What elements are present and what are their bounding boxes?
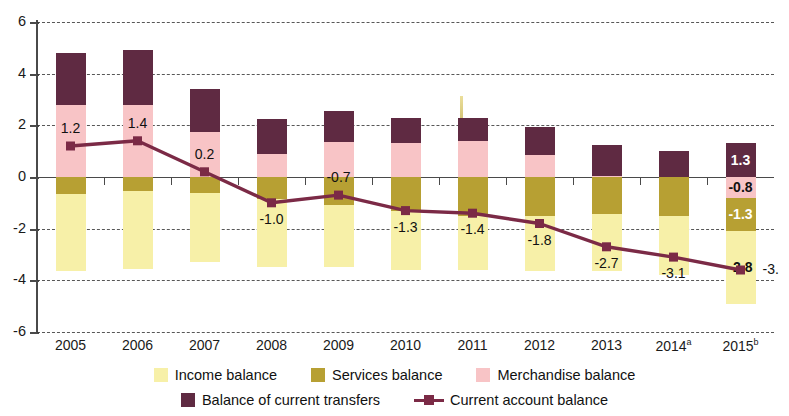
- line-marker[interactable]: [133, 136, 142, 145]
- legend-item[interactable]: Services balance: [311, 367, 442, 383]
- line-marker[interactable]: [267, 198, 276, 207]
- x-axis-tick-label-text: 2013: [591, 337, 622, 353]
- legend-item-label: Services balance: [332, 367, 442, 383]
- line-marker[interactable]: [200, 167, 209, 176]
- line-marker[interactable]: [334, 191, 343, 200]
- x-axis-tick-label: 2015b: [711, 337, 771, 354]
- stacked-bar-line-chart: 6420-2-4-6 -0.8-1.3-2.81.3 1.21.40.2-1.0…: [0, 0, 789, 416]
- line-series-layer: [37, 22, 774, 332]
- line-marker-swatch-icon: [414, 393, 444, 407]
- merchandise-swatch-icon: [476, 368, 490, 382]
- scan-artifact: [460, 96, 463, 118]
- x-axis-tick-label-text: 2010: [390, 337, 421, 353]
- line-marker[interactable]: [401, 206, 410, 215]
- x-axis-tick-label-text: 2005: [55, 337, 86, 353]
- line-marker[interactable]: [602, 242, 611, 251]
- plot-area: -0.8-1.3-2.81.3 1.21.40.2-1.0-0.7-1.3-1.…: [37, 22, 774, 332]
- line-point-label: 1.2: [61, 120, 80, 136]
- line-point-label: -1.8: [527, 232, 551, 248]
- x-axis-tick-label-text: 2011: [457, 337, 487, 353]
- y-axis-tick-label: 4: [0, 65, 26, 81]
- x-axis-tick-label-text: 2014: [655, 338, 686, 354]
- line-point-label: -3.1: [661, 265, 685, 281]
- line-marker[interactable]: [535, 219, 544, 228]
- line-marker[interactable]: [468, 209, 477, 218]
- x-axis-tick-label: 2007: [175, 337, 235, 353]
- line-path: [71, 141, 741, 270]
- legend-item[interactable]: Current account balance: [414, 392, 608, 408]
- legend-item-label: Merchandise balance: [497, 367, 635, 383]
- legend-item[interactable]: Income balance: [154, 367, 277, 383]
- gridline: [37, 332, 774, 333]
- y-axis-tick-label: -4: [0, 271, 26, 287]
- x-axis-tick-label: 2006: [108, 337, 168, 353]
- line-point-label: -3.: [763, 261, 779, 277]
- legend-row-1: Income balanceServices balanceMerchandis…: [0, 362, 789, 387]
- y-axis-tick-label: 0: [0, 168, 26, 184]
- line-marker[interactable]: [736, 266, 745, 275]
- x-axis-label-footnote-marker: b: [754, 337, 759, 347]
- legend-item[interactable]: Balance of current transfers: [181, 392, 380, 408]
- x-axis-tick-label-text: 2007: [189, 337, 220, 353]
- legend-item-label: Income balance: [175, 367, 277, 383]
- x-axis-tick-label: 2005: [41, 337, 101, 353]
- line-point-label: -2.7: [594, 255, 618, 271]
- line-point-label: 0.2: [195, 146, 214, 162]
- x-axis-tick-label: 2008: [242, 337, 302, 353]
- x-axis-tick-label-text: 2008: [256, 337, 287, 353]
- legend-item-label: Balance of current transfers: [202, 392, 380, 408]
- legend-row-2: Balance of current transfersCurrent acco…: [0, 387, 789, 412]
- y-axis-tick-label: 2: [0, 116, 26, 132]
- transfers-swatch-icon: [181, 393, 195, 407]
- x-axis-label-footnote-marker: a: [687, 337, 692, 347]
- y-axis-tick-label: -2: [0, 220, 26, 236]
- services-swatch-icon: [311, 368, 325, 382]
- x-axis-tick-label: 2014a: [644, 337, 704, 354]
- line-point-label: -1.0: [259, 211, 283, 227]
- line-point-label: -1.4: [460, 221, 484, 237]
- x-axis-tick-label-text: 2015: [722, 338, 753, 354]
- line-marker[interactable]: [66, 142, 75, 151]
- legend-item[interactable]: Merchandise balance: [476, 367, 635, 383]
- x-axis-tick-label-text: 2009: [323, 337, 354, 353]
- x-axis-tick-label: 2012: [510, 337, 570, 353]
- x-axis-tick-label-text: 2006: [122, 337, 153, 353]
- line-point-label: -1.3: [393, 219, 417, 235]
- x-axis-tick-label-text: 2012: [524, 337, 555, 353]
- line-marker[interactable]: [669, 253, 678, 262]
- income-swatch-icon: [154, 368, 168, 382]
- chart-legend: Income balanceServices balanceMerchandis…: [0, 362, 789, 412]
- y-axis-tick-label: 6: [0, 13, 26, 29]
- line-point-label: -0.7: [326, 169, 350, 185]
- line-point-label: 1.4: [128, 115, 147, 131]
- x-axis-tick-label: 2010: [376, 337, 436, 353]
- x-axis-tick-label: 2009: [309, 337, 369, 353]
- x-axis-tick-label: 2011: [443, 337, 503, 353]
- y-axis-tick-label: -6: [0, 323, 26, 339]
- legend-item-label: Current account balance: [450, 392, 608, 408]
- x-axis-tick-label: 2013: [577, 337, 637, 353]
